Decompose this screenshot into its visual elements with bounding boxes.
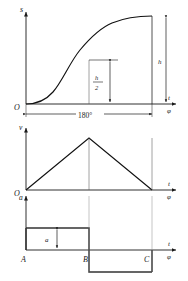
velocity-chart: v t φ O	[14, 123, 176, 201]
acceleration-amplitude-label: a	[45, 236, 49, 244]
displacement-chart: s t φ O h 2 h 180°	[14, 5, 176, 120]
full-rise-label: h	[158, 58, 162, 66]
acceleration-chart: a t φ a A B C	[19, 193, 176, 272]
station-label-A: A	[20, 255, 26, 264]
station-label-B: B	[83, 255, 88, 264]
phi-axis-label-displacement: φ	[167, 107, 171, 115]
figure-canvas: s t φ O h 2 h 180° v t	[0, 0, 188, 281]
v-axis-label: v	[19, 123, 23, 132]
t-axis-label-velocity: t	[168, 180, 171, 188]
half-rise-numerator: h	[95, 74, 98, 81]
half-rise-denominator: 2	[95, 84, 99, 91]
half-rise-label: h 2	[93, 74, 103, 91]
t-axis-label-acceleration: t	[168, 240, 171, 248]
station-label-C: C	[144, 255, 150, 264]
span-label: 180°	[78, 111, 92, 120]
origin-label-displacement: O	[14, 103, 20, 112]
t-axis-label-displacement: t	[168, 94, 171, 102]
a-axis-label: a	[19, 193, 23, 202]
phi-axis-label-velocity: φ	[167, 193, 171, 201]
phi-axis-label-acceleration: φ	[167, 253, 171, 261]
s-axis-label: s	[20, 5, 23, 14]
kinematic-diagram-svg: s t φ O h 2 h 180° v t	[0, 0, 188, 281]
